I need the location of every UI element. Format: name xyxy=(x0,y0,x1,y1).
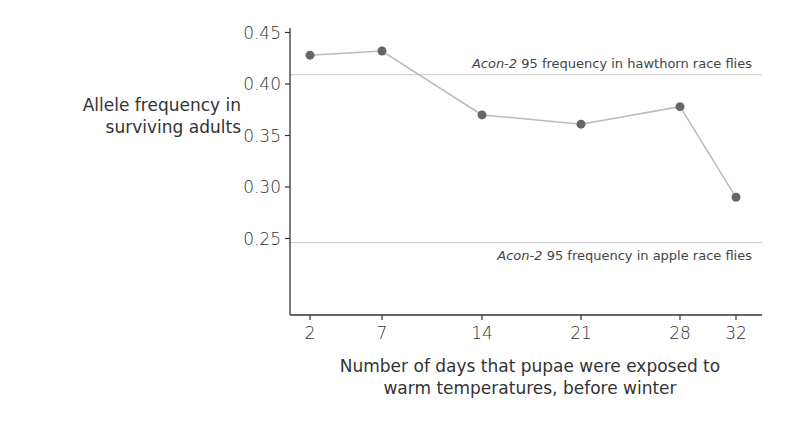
y-tick-label: 0.40 xyxy=(243,74,281,94)
line-chart: Acon-2 95 frequency in hawthorn race fli… xyxy=(0,0,789,429)
x-tick-label: 2 xyxy=(305,323,316,343)
reference-line-label: Acon-2 95 frequency in hawthorn race fli… xyxy=(471,56,752,71)
x-tick-label: 21 xyxy=(570,323,592,343)
data-point xyxy=(732,193,741,202)
x-tick-label: 32 xyxy=(725,323,747,343)
x-tick-label: 7 xyxy=(377,323,388,343)
y-tick-label: 0.45 xyxy=(243,23,281,43)
data-point xyxy=(378,47,387,56)
reference-line-label: Acon-2 95 frequency in apple race flies xyxy=(496,248,752,263)
y-tick-label: 0.35 xyxy=(243,126,281,146)
x-tick-label: 28 xyxy=(669,323,691,343)
x-tick-label: 14 xyxy=(471,323,493,343)
data-point xyxy=(306,51,315,60)
data-point xyxy=(676,102,685,111)
y-tick-label: 0.25 xyxy=(243,229,281,249)
series-line xyxy=(310,51,736,197)
data-point xyxy=(577,120,586,129)
data-point xyxy=(478,110,487,119)
y-tick-label: 0.30 xyxy=(243,177,281,197)
